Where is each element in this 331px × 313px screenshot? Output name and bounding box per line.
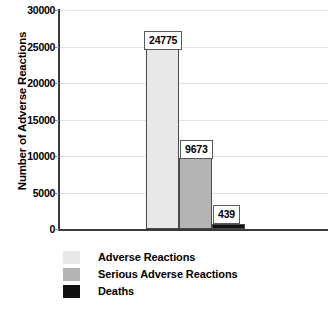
y-tick-label-30000: 30000: [3, 5, 55, 15]
gridline-15000: [59, 120, 328, 121]
y-tick-label-0: 0: [3, 224, 55, 234]
legend-item-serious-adverse-reactions: Serious Adverse Reactions: [63, 267, 323, 282]
tick-mark-10000: [55, 156, 59, 157]
value-label-serious-adverse-reactions: 9673: [180, 140, 213, 159]
bar-serious-adverse-reactions: [179, 158, 212, 229]
legend-swatch-serious-adverse-reactions: [63, 268, 80, 281]
gridline-25000: [59, 47, 328, 48]
legend-swatch-deaths: [63, 285, 80, 298]
tick-mark-20000: [55, 83, 59, 84]
chart-legend: Adverse Reactions Serious Adverse Reacti…: [63, 250, 323, 301]
legend-item-adverse-reactions: Adverse Reactions: [63, 250, 323, 265]
y-axis-ticks: 30000 25000 20000 15000 10000 5000 0: [0, 10, 55, 229]
legend-item-deaths: Deaths: [63, 284, 323, 299]
tick-mark-15000: [55, 120, 59, 121]
legend-label-adverse-reactions: Adverse Reactions: [98, 252, 195, 263]
gridline-20000: [59, 83, 328, 84]
y-tick-label-5000: 5000: [3, 188, 55, 198]
tick-mark-5000: [55, 193, 59, 194]
tick-mark-0: [55, 229, 59, 230]
y-tick-label-20000: 20000: [3, 78, 55, 88]
legend-label-serious-adverse-reactions: Serious Adverse Reactions: [98, 269, 238, 280]
plot-area: [59, 10, 328, 229]
gridline-30000: [59, 10, 328, 11]
y-tick-label-10000: 10000: [3, 151, 55, 161]
value-label-adverse-reactions: 24775: [144, 31, 182, 50]
y-tick-label-25000: 25000: [3, 42, 55, 52]
tick-mark-30000: [55, 10, 59, 11]
legend-swatch-adverse-reactions: [63, 251, 80, 264]
value-label-deaths: 439: [213, 205, 240, 224]
y-tick-label-15000: 15000: [3, 115, 55, 125]
bar-adverse-reactions: [146, 48, 179, 229]
legend-label-deaths: Deaths: [98, 286, 134, 297]
tick-mark-25000: [55, 47, 59, 48]
bar-chart: Number of Adverse Reactions 30000 25000 …: [0, 0, 331, 313]
x-axis-line: [58, 229, 328, 231]
